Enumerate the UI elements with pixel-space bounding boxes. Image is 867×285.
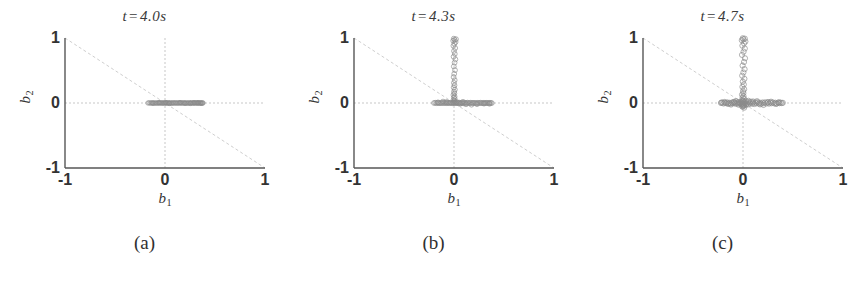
panel-c-xtick-neg1: -1	[636, 172, 650, 188]
panel-c-xlabel: b1	[643, 190, 843, 208]
figure-scatter-panels: t=4.0s 1 0 -1 -1 0 1 b2 b1	[0, 0, 867, 285]
panel-b-title: t=4.3s	[289, 8, 578, 25]
panel-a-xtick-1: 1	[261, 172, 270, 188]
panel-b-svg	[354, 38, 554, 168]
panel-b-ytick-0: 0	[340, 95, 349, 111]
panel-c-plot-area: 1 0 -1 -1 0 1 b2 b1	[643, 38, 843, 168]
panel-a-title-eq: =	[127, 8, 140, 24]
panel-a-ylabel: b2	[17, 90, 35, 103]
panel-a-ytick-1: 1	[51, 30, 60, 46]
panel-a-plot-area: 1 0 -1 -1 0 1 b2 b1	[65, 38, 265, 168]
panel-c-title-eq: =	[705, 8, 718, 24]
panel-b-xtick-1: 1	[550, 172, 559, 188]
panel-b-xlabel: b1	[354, 190, 554, 208]
panel-c-ytick-0: 0	[629, 95, 638, 111]
panel-c-svg	[643, 38, 843, 168]
panel-a-svg	[65, 38, 265, 168]
panel-b-subcaption: (b)	[289, 232, 578, 254]
panel-c-title: t=4.7s	[578, 8, 867, 25]
panel-b-xtick-0: 0	[450, 172, 459, 188]
panel-c-ytick-1: 1	[629, 30, 638, 46]
panel-b-title-eq: =	[416, 8, 429, 24]
panel-a: t=4.0s 1 0 -1 -1 0 1 b2 b1	[0, 0, 289, 285]
panel-a-ytick-0: 0	[51, 95, 60, 111]
panel-a-xtick-neg1: -1	[58, 172, 72, 188]
panel-c-points	[718, 36, 785, 111]
data-point	[741, 70, 746, 75]
panel-a-points	[146, 100, 205, 105]
panel-c-xtick-1: 1	[839, 172, 848, 188]
panel-a-xlabel: b1	[65, 190, 265, 208]
panel-c-ylabel: b2	[595, 90, 613, 103]
panel-a-title: t=4.0s	[0, 8, 289, 25]
data-point	[739, 52, 744, 57]
panel-a-xtick-0: 0	[161, 172, 170, 188]
panel-b-plot-area: 1 0 -1 -1 0 1 b2 b1	[354, 38, 554, 168]
panel-c-subcaption: (c)	[578, 232, 867, 254]
panel-b-ytick-1: 1	[340, 30, 349, 46]
panel-c-title-value: 4.7s	[718, 8, 745, 24]
panel-c: t=4.7s 1 0 -1 -1 0 1 b2 b1	[578, 0, 867, 285]
panel-b-ylabel: b2	[306, 90, 324, 103]
panel-b-points	[432, 36, 495, 107]
panel-c-xtick-0: 0	[739, 172, 748, 188]
panel-b-title-value: 4.3s	[429, 8, 456, 24]
panel-b-xtick-neg1: -1	[347, 172, 361, 188]
panel-a-title-value: 4.0s	[140, 8, 167, 24]
panel-a-subcaption: (a)	[0, 232, 289, 254]
data-point	[741, 49, 746, 54]
data-point	[452, 78, 457, 83]
panel-b: t=4.3s 1 0 -1 -1 0 1 b2 b1	[289, 0, 578, 285]
